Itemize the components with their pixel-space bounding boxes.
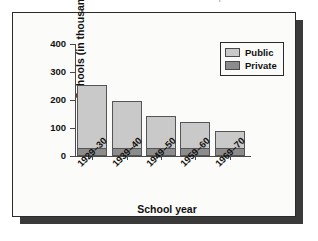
panel-shadow-right: [296, 20, 303, 224]
y-axis-tick-label: 200: [50, 94, 66, 105]
x-axis-title: School year: [25, 203, 309, 215]
legend-item-private: Private: [225, 59, 277, 72]
y-axis-tick-label: 100: [50, 122, 66, 133]
chart-panel: Schools (in thousands) 0100200300400 192…: [12, 12, 296, 217]
figure-caption-sliver: FIGURE 2.2Number of Schools: Bar Graph: [0, 0, 318, 7]
chart-legend: PublicPrivate: [220, 42, 284, 76]
y-axis-tick-label: 300: [50, 66, 66, 77]
legend-swatch-public: [225, 48, 240, 57]
figure-caption-text: FIGURE 2.2Number of Schools: Bar Graph: [8, 0, 230, 2]
y-axis-tick-label: 0: [61, 150, 66, 161]
legend-label-private: Private: [245, 60, 277, 71]
legend-swatch-private: [225, 61, 240, 70]
legend-item-public: Public: [225, 46, 277, 59]
y-axis-tick-label: 400: [50, 38, 66, 49]
legend-label-public: Public: [245, 47, 274, 58]
y-axis-tick: 0: [70, 156, 75, 157]
panel-shadow-bottom: [20, 217, 303, 224]
